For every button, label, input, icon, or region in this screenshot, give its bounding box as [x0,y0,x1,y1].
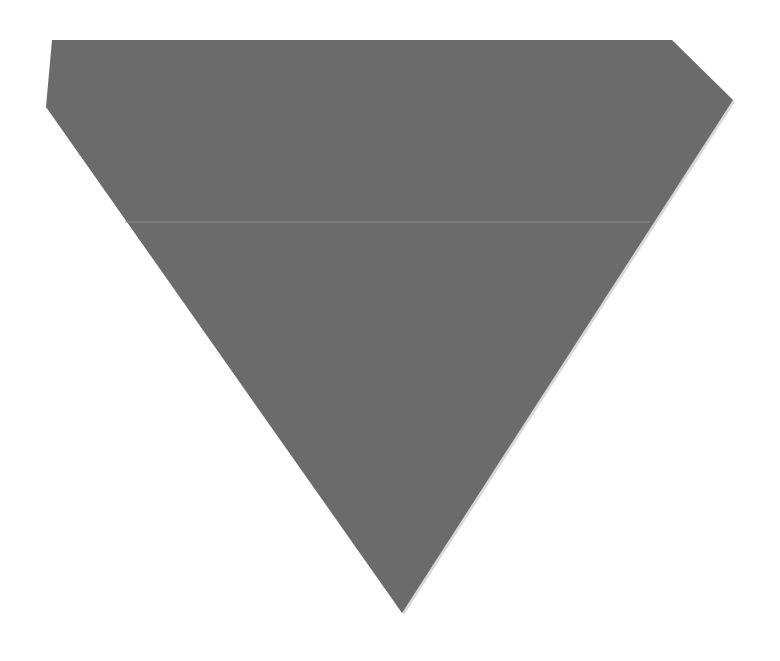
scene-canvas [0,0,780,661]
gray-pentagon-shape [46,40,733,613]
